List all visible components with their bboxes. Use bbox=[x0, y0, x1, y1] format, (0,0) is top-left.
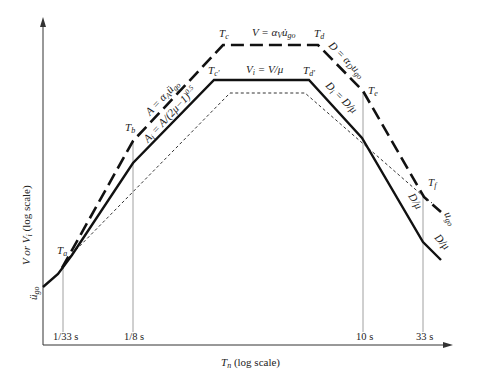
inelastic-design-spectrum-diagram: V or Vi (log scale) Tn (log scale) ügo 1… bbox=[0, 0, 477, 388]
tick-label-33s: 33 s bbox=[416, 331, 433, 342]
equation-inelastic-displacement-3: D/μ bbox=[432, 231, 453, 252]
origin-label: ügo bbox=[27, 287, 41, 301]
point-label-tc: Tc bbox=[219, 27, 229, 41]
y-axis-title: V or Vi (log scale) bbox=[20, 185, 34, 265]
point-label-tc-prime: Tc' bbox=[208, 64, 220, 78]
point-label-td: Td bbox=[314, 27, 325, 41]
tick-label-1-33s: 1/33 s bbox=[53, 331, 78, 342]
point-label-tb: Tb bbox=[125, 121, 135, 135]
tick-label-1-8s: 1/8 s bbox=[124, 331, 144, 342]
elastic-spectrum-line bbox=[62, 45, 441, 268]
equation-elastic-end: ugo bbox=[440, 209, 459, 227]
point-label-tf: Tf bbox=[428, 176, 438, 190]
y-axis-arrow-icon bbox=[40, 17, 46, 27]
x-axis-title: Tn (log scale) bbox=[221, 356, 280, 370]
equation-inelastic-velocity: Vi = V/μ bbox=[246, 63, 284, 77]
point-label-te: Te bbox=[368, 84, 378, 98]
equation-elastic-velocity: V = αVu̇go bbox=[252, 26, 296, 40]
period-gridlines bbox=[63, 92, 423, 332]
x-axis-arrow-icon bbox=[443, 342, 453, 348]
tick-label-10s: 10 s bbox=[356, 331, 373, 342]
point-label-td-prime: Td' bbox=[303, 64, 315, 78]
inelastic-spectrum-line bbox=[43, 80, 441, 287]
point-label-ta: Ta bbox=[57, 244, 67, 258]
